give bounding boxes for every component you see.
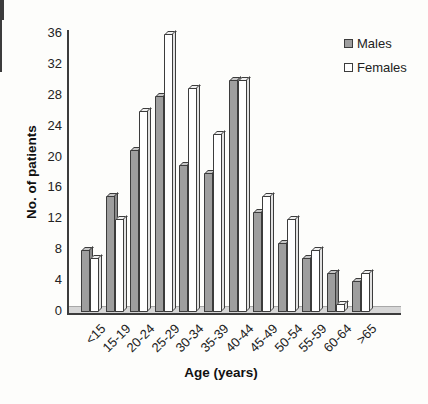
bar-males-50-54 (278, 243, 287, 312)
bar-females-55-59 (311, 250, 320, 312)
bar-males-15-19 (106, 196, 115, 312)
y-tick-label: 32 (20, 56, 62, 72)
y-tick-label: 16 (20, 179, 62, 195)
bar-males-<15 (81, 250, 90, 312)
bar-males-35-39 (204, 173, 213, 312)
bar-females-40-44 (238, 80, 247, 312)
bar-males-30-34 (179, 165, 188, 312)
bar-males-25-29 (155, 96, 164, 312)
bar-males->65 (352, 281, 361, 312)
x-tick (0, 68, 2, 72)
x-axis-line (67, 313, 401, 315)
y-tick-label: 0 (20, 303, 62, 319)
bar-males-55-59 (302, 258, 311, 312)
bar-males-40-44 (229, 80, 238, 312)
bar-chart-figure: No. of patients Age (years) Males Female… (0, 0, 428, 404)
bar-females-<15 (90, 258, 99, 312)
y-tick-label: 28 (20, 87, 62, 103)
bar-females-35-39 (213, 134, 222, 312)
bar-males-45-49 (253, 212, 262, 312)
bar-females-25-29 (164, 34, 173, 312)
y-tick-label: 24 (20, 118, 62, 134)
bar-females-15-19 (115, 219, 124, 312)
y-tick-label: 20 (20, 149, 62, 165)
bar-males-20-24 (130, 150, 139, 312)
y-tick-label: 36 (20, 25, 62, 41)
bar-females-60-64 (336, 304, 345, 312)
y-tick-label: 4 (20, 272, 62, 288)
plot-area: 04812162024283236<1515-1920-2425-2930-34… (0, 0, 428, 404)
bar-females-45-49 (262, 196, 271, 312)
bar-females-20-24 (139, 111, 148, 312)
bar-females-50-54 (287, 219, 296, 312)
bar-females-30-34 (188, 88, 197, 312)
y-tick-label: 8 (20, 241, 62, 257)
bar-females->65 (361, 273, 370, 312)
y-tick-label: 12 (20, 210, 62, 226)
bar-males-60-64 (327, 273, 336, 312)
y-axis-line (67, 30, 69, 315)
